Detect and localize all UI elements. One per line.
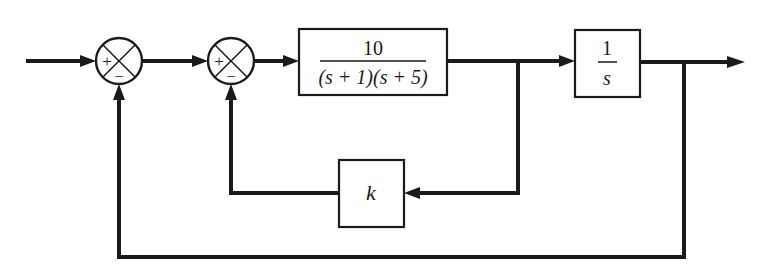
summing-junction-2: + − (208, 38, 254, 86)
output-arrow-icon (727, 56, 745, 68)
feedback-gain-block: k (339, 160, 404, 227)
integrator-denominator: s (603, 67, 611, 89)
plant-denominator: (s + 1)(s + 5) (318, 66, 428, 89)
arrow-icon (404, 187, 420, 199)
minus-sign: − (226, 67, 236, 86)
arrow-icon (225, 84, 237, 100)
inner-feedback-return-wire (231, 96, 339, 193)
arrow-icon (283, 55, 299, 67)
summing-junction-1: + − (96, 38, 142, 86)
arrow-icon (559, 55, 575, 67)
plant-numerator: 10 (363, 37, 383, 59)
plant-block: 10 (s + 1)(s + 5) (299, 29, 447, 95)
plus-sign: + (102, 52, 112, 71)
minus-sign: − (114, 67, 124, 86)
block-diagram: + − + − 10 (s + 1)(s + 5) 1 s k (0, 0, 761, 278)
integrator-numerator: 1 (602, 37, 612, 59)
gain-label: k (366, 180, 377, 205)
integrator-block: 1 s (575, 30, 640, 97)
input-arrow-icon (80, 55, 96, 67)
arrow-icon (113, 84, 125, 100)
plus-sign: + (214, 52, 224, 71)
arrow-icon (192, 55, 208, 67)
